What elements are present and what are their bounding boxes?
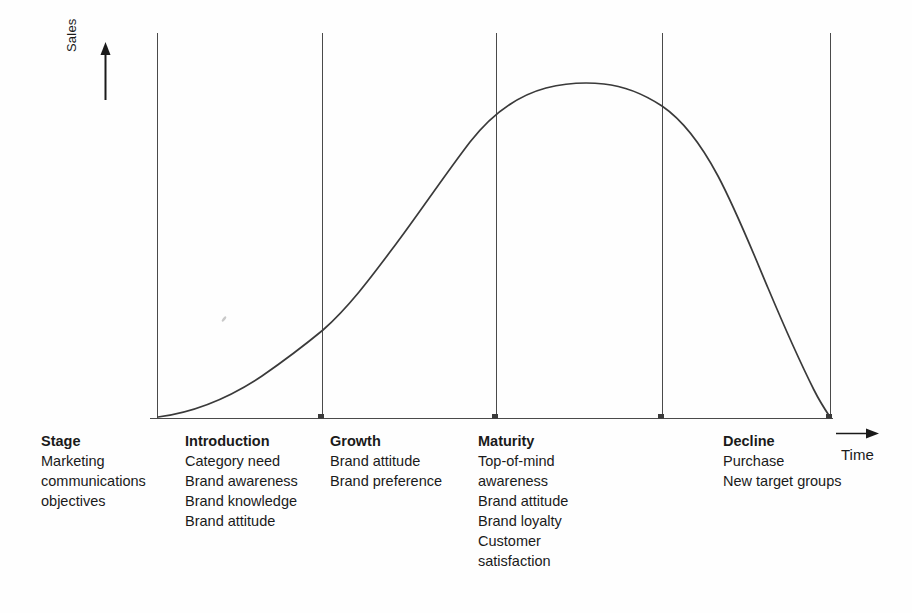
legend-item: Top-of-mind	[478, 451, 568, 471]
legend-item: Brand attitude	[330, 451, 442, 471]
legend-item: Brand knowledge	[185, 491, 298, 511]
legend-column-maturity: Maturity Top-of-mind awareness Brand att…	[478, 431, 568, 571]
legend-item: Marketing	[41, 451, 146, 471]
legend-item: Brand attitude	[478, 491, 568, 511]
legend-header-maturity: Maturity	[478, 431, 568, 451]
legend-column-introduction: Introduction Category need Brand awarene…	[185, 431, 298, 531]
legend-item: satisfaction	[478, 551, 568, 571]
legend-item: Brand awareness	[185, 471, 298, 491]
legend-item: Brand attitude	[185, 511, 298, 531]
legend-header-growth: Growth	[330, 431, 442, 451]
legend-item: Brand preference	[330, 471, 442, 491]
legend-header-introduction: Introduction	[185, 431, 298, 451]
legend-item: objectives	[41, 491, 146, 511]
legend-item: communications	[41, 471, 146, 491]
legend-column-growth: Growth Brand attitude Brand preference	[330, 431, 442, 491]
legend-column-decline: Decline Purchase New target groups	[723, 431, 841, 491]
legend-item: Customer	[478, 531, 568, 551]
legend-header-stage: Stage	[41, 431, 146, 451]
legend-item: awareness	[478, 471, 568, 491]
legend-item: Purchase	[723, 451, 841, 471]
stage-legend: Stage Marketing communications objective…	[0, 0, 912, 613]
legend-item: Category need	[185, 451, 298, 471]
product-life-cycle-figure: Sales Time Stage Marketing communication…	[0, 0, 912, 613]
legend-item: New target groups	[723, 471, 841, 491]
legend-item: Brand loyalty	[478, 511, 568, 531]
legend-header-decline: Decline	[723, 431, 841, 451]
legend-column-stage: Stage Marketing communications objective…	[41, 431, 146, 511]
